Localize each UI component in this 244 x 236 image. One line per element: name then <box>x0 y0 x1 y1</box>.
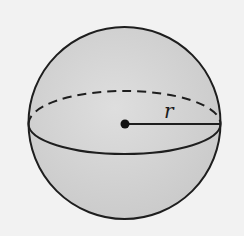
center-point <box>121 120 130 129</box>
sphere-diagram: r <box>0 0 244 236</box>
radius-label: r <box>164 99 175 123</box>
